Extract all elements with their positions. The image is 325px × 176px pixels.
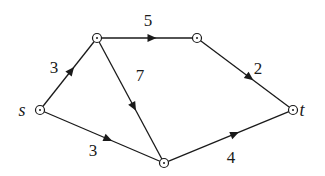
labels: 357234st <box>18 11 305 167</box>
node-label-s: s <box>18 100 25 120</box>
node-center-dot <box>292 109 294 111</box>
arrowhead-icon <box>65 67 74 77</box>
edge-weight-label: 5 <box>144 11 153 30</box>
edge-a-c <box>99 42 162 159</box>
arrowhead-icon <box>148 34 157 42</box>
edge-weight-label: 2 <box>254 59 263 78</box>
node-center-dot <box>196 37 198 39</box>
edge-s-c <box>44 112 160 161</box>
edge-weight-label: 4 <box>227 148 236 167</box>
arrowheads <box>65 34 253 141</box>
edge-weight-label: 7 <box>136 66 145 85</box>
node-center-dot <box>96 37 98 39</box>
network-diagram: 357234st <box>0 0 325 176</box>
node-center-dot <box>39 109 41 111</box>
edge-weight-label: 3 <box>89 141 98 160</box>
edges <box>43 38 290 161</box>
node-center-dot <box>163 162 165 164</box>
arrowhead-icon <box>244 72 254 81</box>
edge-weight-label: 3 <box>50 58 59 77</box>
node-label-t: t <box>299 100 305 120</box>
nodes <box>36 34 298 168</box>
edge-b-t <box>201 41 290 108</box>
